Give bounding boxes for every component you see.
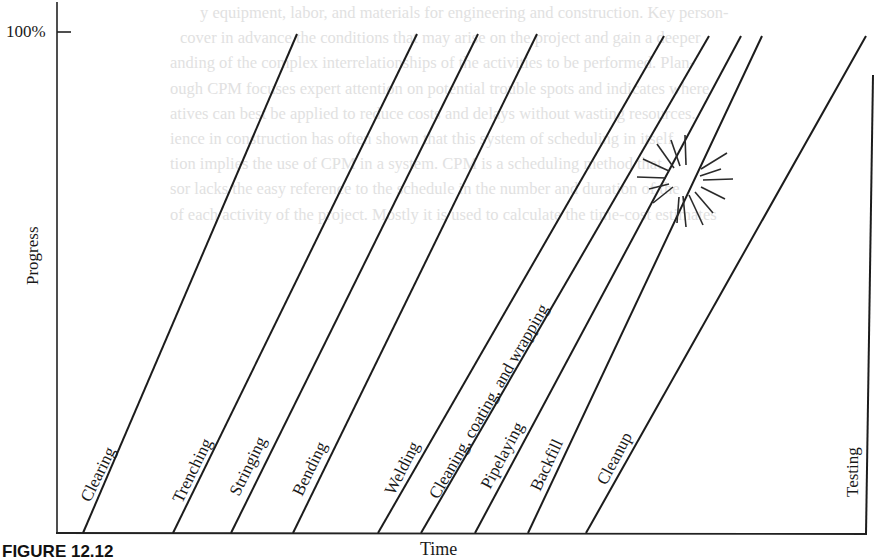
label-clearing: Clearing — [77, 443, 120, 504]
label-cleanup: Cleanup — [593, 429, 636, 488]
label-testing: Testing — [843, 447, 862, 497]
label-welding: Welding — [381, 438, 424, 498]
line-trenching — [173, 34, 417, 533]
x-axis-label: Time — [420, 539, 457, 558]
line-stringing — [231, 34, 478, 533]
y-axis-label: Progress — [23, 226, 42, 285]
x-axis — [56, 533, 867, 534]
line-testing — [866, 75, 873, 534]
progress-chart: 100% Progress Time Clearing Trenching St… — [0, 0, 878, 558]
y-tick-label: 100% — [6, 22, 46, 41]
figure-caption: FIGURE 12.12 — [2, 542, 114, 558]
starburst-icon — [637, 135, 733, 227]
